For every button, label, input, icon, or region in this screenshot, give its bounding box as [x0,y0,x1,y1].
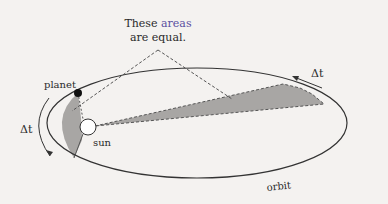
arrowhead-left [46,150,53,156]
pointer-line-left [72,50,158,111]
area-sector-left [62,93,82,158]
delta-t-left-label: Δt [20,123,33,136]
pointer-line-right [158,50,232,99]
planet [74,89,82,97]
kepler-diagram: These areas are equal. planet sun orbit … [0,0,388,204]
annotation-text: These areas [124,17,191,30]
planet-label: planet [44,79,76,90]
motion-arrow-left [39,98,50,156]
annotation-text-line2: are equal. [130,31,186,44]
sun [80,119,96,135]
area-sector-right [95,84,324,126]
orbit-label: orbit [266,179,291,192]
delta-t-right-label: Δt [311,67,324,80]
sun-label: sun [93,137,112,148]
